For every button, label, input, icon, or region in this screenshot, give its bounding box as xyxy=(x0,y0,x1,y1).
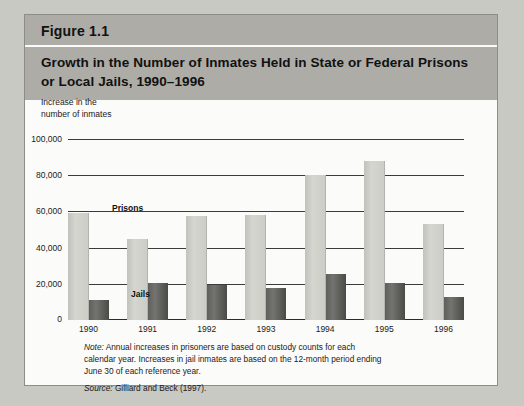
bar-prisons-1996 xyxy=(423,224,444,320)
x-axis-label-1994: 1994 xyxy=(305,324,346,334)
y-tick-label-20000: 20,000 xyxy=(36,279,62,289)
bar-jails-1991 xyxy=(148,283,168,320)
series-label-prisons: Prisons xyxy=(112,203,143,213)
y-axis-caption: Increase in the number of inmates xyxy=(41,97,111,120)
note-line: Note: Annual increases in prisoners are … xyxy=(84,342,384,377)
bar-prisons-1994 xyxy=(305,175,326,320)
figure-title: Growth in the Number of Inmates Held in … xyxy=(41,55,468,89)
note-text: Annual increases in prisoners are based … xyxy=(84,342,382,376)
bar-group-1990 xyxy=(68,139,109,320)
bar-jails-1992 xyxy=(207,285,227,320)
source-text: Gilliard and Beck (1997). xyxy=(113,383,207,393)
series-label-jails: Jails xyxy=(131,289,150,299)
bar-prisons-1993 xyxy=(245,215,266,320)
footnotes: Note: Annual increases in prisoners are … xyxy=(84,342,384,395)
bar-jails-1995 xyxy=(385,283,405,320)
bar-group-1995 xyxy=(364,139,405,320)
bar-jails-1994 xyxy=(326,274,346,320)
bar-groups xyxy=(68,139,464,320)
bar-group-1996 xyxy=(423,139,464,320)
bar-prisons-1995 xyxy=(364,161,385,320)
x-axis-label-1990: 1990 xyxy=(68,324,109,334)
bar-jails-1990 xyxy=(89,300,109,320)
bar-group-1994 xyxy=(305,139,346,320)
bar-group-1992 xyxy=(186,139,227,320)
note-prefix: Note: xyxy=(84,342,104,352)
bar-prisons-1992 xyxy=(186,216,207,320)
x-axis-label-1996: 1996 xyxy=(423,324,464,334)
bar-jails-1996 xyxy=(444,297,464,320)
chart-area: Increase in the number of inmates 100,00… xyxy=(25,93,497,387)
bar-jails-1993 xyxy=(266,288,286,320)
figure-card: Figure 1.1 Growth in the Number of Inmat… xyxy=(24,14,498,386)
source-prefix: Source: xyxy=(84,383,113,393)
figure-header-band: Figure 1.1 Growth in the Number of Inmat… xyxy=(25,15,497,100)
y-tick-label-80000: 80,000 xyxy=(36,170,62,180)
y-tick-label-40000: 40,000 xyxy=(36,243,62,253)
plot-region: 100,000 80,000 60,000 40,000 20,000 0 xyxy=(68,139,464,320)
y-tick-label-100000: 100,000 xyxy=(31,134,62,144)
x-axis-label-1995: 1995 xyxy=(364,324,405,334)
bar-prisons-1990 xyxy=(68,213,89,320)
figure-number: Figure 1.1 xyxy=(41,23,109,39)
x-axis-label-1991: 1991 xyxy=(127,324,168,334)
y-tick-label-0: 0 xyxy=(57,314,62,324)
bar-prisons-1991 xyxy=(127,239,148,320)
source-line: Source: Gilliard and Beck (1997). xyxy=(84,383,384,395)
x-axis-label-1992: 1992 xyxy=(186,324,227,334)
bar-group-1993 xyxy=(245,139,286,320)
x-axis-label-1993: 1993 xyxy=(245,324,286,334)
figure-screenshot: Figure 1.1 Growth in the Number of Inmat… xyxy=(0,0,524,406)
x-axis-labels: 1990199119921993199419951996 xyxy=(68,324,464,334)
figure-title-row: Growth in the Number of Inmates Held in … xyxy=(25,47,497,100)
y-tick-label-60000: 60,000 xyxy=(36,206,62,216)
figure-number-row: Figure 1.1 xyxy=(25,15,497,47)
